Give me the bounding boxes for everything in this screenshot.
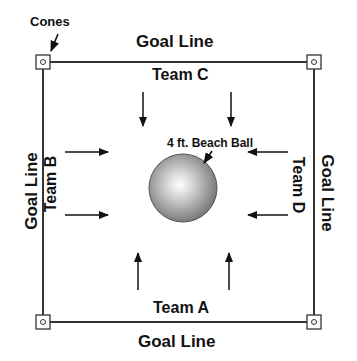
beach-ball-label: 4 ft. Beach Ball xyxy=(167,136,253,150)
team-b-label: Team B xyxy=(42,149,60,219)
ball-pointer-arrow xyxy=(204,151,212,163)
goal-line-top-label: Goal Line xyxy=(136,32,213,52)
cones-pointer-arrow xyxy=(51,34,58,51)
cone-bottom-right xyxy=(307,315,321,329)
team-a-label: Team A xyxy=(153,299,209,317)
cone-top-right xyxy=(307,55,321,69)
cone-bottom-left xyxy=(36,315,50,329)
cones-label: Cones xyxy=(30,14,70,29)
goal-line-right-label: Goal Line xyxy=(317,148,337,238)
team-d-label: Team D xyxy=(289,150,307,220)
goal-line-bottom-label: Goal Line xyxy=(138,332,215,352)
beach-ball xyxy=(149,154,217,222)
team-c-label: Team C xyxy=(152,66,209,84)
cone-top-left xyxy=(36,55,50,69)
goal-line-left-label: Goal Line xyxy=(22,146,42,236)
